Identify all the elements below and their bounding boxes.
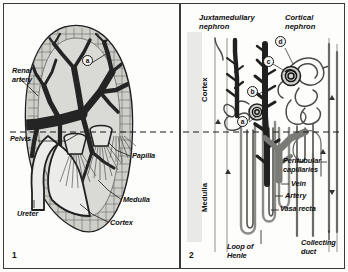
- label-vasa-recta: Vasa recta: [280, 205, 316, 214]
- zone-label-cortex: Cortex: [200, 77, 209, 102]
- cortex-medulla-dashed-line-2: [179, 4, 346, 270]
- label-artery: Artery: [285, 192, 306, 201]
- label-loop-of-henle: Loop of Henle: [227, 243, 253, 260]
- panel-nephron-detail: Juxtamedullary nephron Cortical nephron …: [179, 4, 346, 268]
- panel-divider: [179, 4, 181, 268]
- figure-frame: a Renal artery Pelvis Ureter Papilla Med…: [3, 3, 345, 269]
- panel-number-1: 1: [12, 250, 17, 260]
- marker-a: a: [82, 55, 93, 66]
- marker-d: d: [275, 36, 286, 47]
- marker-c: c: [263, 56, 274, 67]
- heading-cortical-nephron: Cortical nephron: [285, 14, 315, 32]
- label-renal-artery: Renal artery: [12, 67, 32, 84]
- marker-b: b: [247, 86, 258, 97]
- panel-number-2: 2: [189, 250, 194, 260]
- label-vein: Vein: [291, 180, 306, 189]
- label-papilla: Papilla: [132, 152, 155, 161]
- marker-a2: a: [237, 116, 248, 127]
- label-peritubular-capillaries: Peritubular capillaries: [283, 157, 321, 174]
- zone-label-medulla: Medulla: [200, 183, 209, 212]
- label-cortex: Cortex: [110, 219, 133, 228]
- label-medulla: Medulla: [123, 196, 150, 205]
- label-pelvis: Pelvis: [10, 135, 31, 144]
- label-collecting-duct: Collecting duct: [301, 239, 336, 256]
- panel-kidney-gross: a Renal artery Pelvis Ureter Papilla Med…: [4, 4, 179, 268]
- heading-juxtamedullary-nephron: Juxtamedullary nephron: [199, 14, 255, 32]
- kidney-figure: a Renal artery Pelvis Ureter Papilla Med…: [0, 0, 348, 272]
- label-ureter: Ureter: [17, 210, 38, 219]
